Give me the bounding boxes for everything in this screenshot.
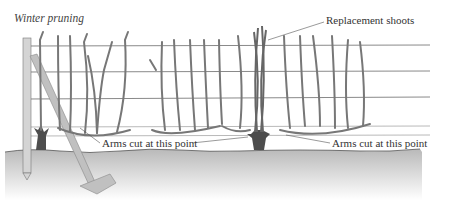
canes-right bbox=[280, 36, 370, 134]
canes-middle bbox=[150, 40, 222, 133]
trellis-post bbox=[23, 38, 31, 173]
pruning-illustration bbox=[0, 0, 450, 211]
vine-trunk-center bbox=[247, 130, 270, 150]
canes-left bbox=[40, 32, 130, 136]
label-arms-cut-right: Arms cut at this point bbox=[332, 137, 427, 149]
diagram-title: Winter pruning bbox=[14, 12, 84, 24]
replacement-shoots bbox=[254, 26, 266, 132]
label-replacement-shoots: Replacement shoots bbox=[326, 14, 414, 26]
ground bbox=[5, 149, 422, 200]
label-arms-cut-left: Arms cut at this point bbox=[102, 137, 197, 149]
